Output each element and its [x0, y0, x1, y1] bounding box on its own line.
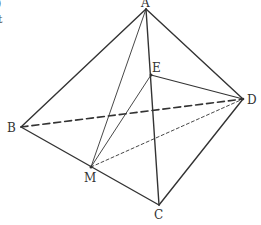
edge-BD-hidden	[21, 99, 243, 127]
point-D-dot	[242, 98, 245, 101]
point-M-dot	[90, 166, 93, 169]
edge-AM	[91, 9, 146, 167]
label-E: E	[152, 61, 161, 75]
label-M: M	[84, 171, 96, 185]
edge-CD	[159, 99, 243, 205]
edge-AC	[146, 9, 159, 205]
label-A: A	[140, 0, 150, 10]
label-B: B	[7, 121, 16, 135]
label-C: C	[154, 208, 163, 222]
edge-AD	[146, 9, 243, 99]
tetrahedron-diagram: A B C D E M	[0, 0, 261, 225]
label-D: D	[247, 93, 257, 107]
edge-AB	[21, 9, 146, 127]
